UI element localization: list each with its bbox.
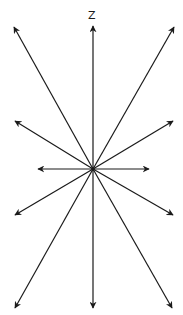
arrow-bottom-left-icon bbox=[15, 169, 93, 308]
arrow-up-right-icon bbox=[93, 27, 174, 169]
radiating-arrows-diagram bbox=[0, 0, 183, 315]
arrow-mid-left-icon bbox=[15, 121, 93, 169]
origin-point bbox=[91, 167, 95, 171]
arrow-lower-left-icon bbox=[15, 169, 93, 215]
arrow-lower-right-icon bbox=[93, 169, 173, 215]
arrow-up-left-icon bbox=[14, 27, 93, 169]
arrow-group bbox=[14, 26, 174, 308]
z-axis-label: Z bbox=[88, 9, 96, 22]
arrow-mid-right-icon bbox=[93, 121, 173, 169]
arrow-bottom-right-icon bbox=[93, 169, 172, 308]
